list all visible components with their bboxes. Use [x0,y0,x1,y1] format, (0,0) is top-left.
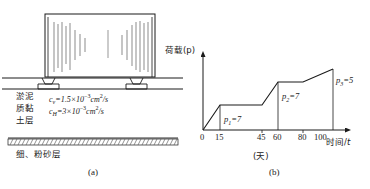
x-tick-15: 15 [215,133,224,142]
drain-lines-left [54,22,85,72]
caption-a: (a) [88,168,98,177]
load-curve [203,69,333,130]
drain-lines-right [122,21,148,72]
figure-container: 淤泥 质黏 土层 cv=1.5×10−3cm2/s cH=3×10−3cm2/s… [0,0,370,189]
x-axis-label: 时间/t [326,138,350,147]
x-tick-80: 80 [298,133,307,142]
x-axis-unit: (天) [253,152,269,161]
load-time-plot [185,0,370,189]
footing-left [38,78,59,89]
annotation-p1: p1=7 [224,115,241,126]
x-tick-100: 100 [314,133,327,142]
soil-layer-label-line-1: 淤泥 [16,92,34,101]
soil-layer-label-line-3: 土层 [16,116,34,125]
coefficient-ch: cH=3×10−3cm2/s [49,105,104,117]
panel-a-cross-section: 淤泥 质黏 土层 cv=1.5×10−3cm2/s cH=3×10−3cm2/s… [0,0,185,189]
sand-hatch-band [8,139,178,145]
footing-right [126,78,147,89]
x-tick-0: 0 [200,133,204,142]
bottom-layer-label: 细、粉砂层 [16,150,61,159]
annotation-p3: p3=5 [336,76,353,87]
coefficient-cv: cv=1.5×10−3cm2/s [49,93,108,105]
caption-b: (b) [269,168,280,177]
panel-b-load-time-chart: 荷载(p) 时间/t (天) 0 15 45 60 80 100 p1=7 p2… [185,0,370,189]
x-tick-45: 45 [257,133,266,142]
y-axis-label: 荷载(p) [165,46,195,55]
annotation-p2: p2=7 [282,92,299,103]
x-tick-60: 60 [273,133,282,142]
structure-outline [45,14,155,77]
soil-layer-label-line-2: 质黏 [16,104,34,113]
